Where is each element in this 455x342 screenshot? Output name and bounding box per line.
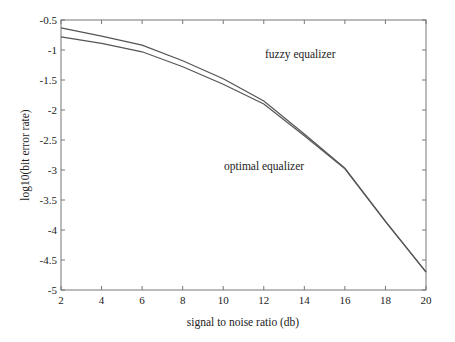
x-tick-label: 6 [139,294,145,306]
y-tick-label: -5 [48,284,58,296]
y-tick-label: -3.5 [40,194,58,206]
x-tick-label: 18 [380,294,392,306]
plot-frame [61,20,426,290]
y-tick-label: -4 [48,224,58,236]
y-tick-label: -0.5 [40,14,58,26]
x-axis-label: signal to noise ratio (db) [187,316,300,329]
optimal-equalizer-annotation: optimal equalizer [224,160,304,173]
x-tick-label: 10 [218,294,230,306]
y-axis-label: log10(bit error rate) [19,109,32,200]
y-tick-label: -1 [48,44,57,56]
x-tick-label: 4 [99,294,105,306]
x-tick-label: 12 [258,294,269,306]
fuzzy-equalizer-annotation: fuzzy equalizer [265,48,336,61]
x-tick-label: 16 [339,294,351,306]
y-tick-label: -1.5 [40,74,58,86]
y-tick-label: -2 [48,104,57,116]
x-tick-label: 14 [299,294,311,306]
x-tick-label: 2 [58,294,64,306]
x-tick-label: 20 [421,294,433,306]
y-tick-label: -4.5 [40,254,58,266]
bit-error-rate-chart: 2468101214161820 -0.5-1-1.5-2-2.5-3-3.5-… [0,0,455,342]
y-tick-label: -3 [48,164,58,176]
x-tick-label: 8 [180,294,186,306]
y-tick-label: -2.5 [40,134,58,146]
